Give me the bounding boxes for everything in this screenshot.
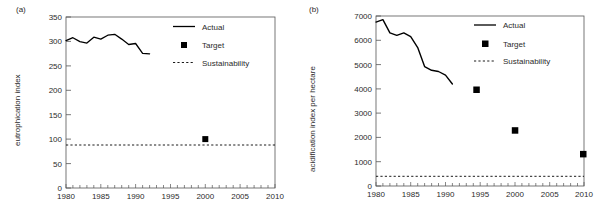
legend-sustainability-label-a: Sustainability — [202, 59, 249, 68]
figure-container: (a) eutrophication index 0 50 100 — [0, 0, 595, 216]
panel-a-xtick-1985: 1985 — [92, 192, 110, 201]
panel-b-target-marker-2010 — [580, 151, 587, 158]
panel-b-target-marker-1994 — [473, 87, 480, 94]
panel-b-svg: (b) acidification index per hectare 0 10… — [297, 0, 595, 216]
panel-a-label: (a) — [16, 5, 26, 14]
legend-target-swatch-a — [181, 42, 187, 48]
panel-a-target-marker — [202, 136, 208, 142]
panel-a-y-ticks — [66, 17, 71, 188]
panel-b-x-tick-labels: 1980 1985 1990 1995 2000 2005 2010 — [367, 190, 593, 199]
legend-sustainability-label-b: Sustainability — [503, 57, 550, 66]
panel-a-y-axis-title: eutrophication index — [13, 74, 22, 146]
panel-b-xtick-2000: 2000 — [506, 190, 524, 199]
panel-a-ytick-100: 100 — [49, 135, 63, 144]
panel-a-x-minor-ticks — [66, 184, 275, 188]
panel-b-ytick-4000: 4000 — [354, 85, 372, 94]
panel-a-ytick-200: 200 — [49, 86, 63, 95]
legend-target-swatch-b — [482, 41, 489, 48]
legend-actual-label-a: Actual — [202, 23, 224, 32]
panel-a-xtick-1980: 1980 — [57, 192, 75, 201]
panel-b-ytick-5000: 5000 — [354, 61, 372, 70]
panel-a-xtick-1995: 1995 — [162, 192, 180, 201]
panel-b-xtick-2010: 2010 — [575, 190, 593, 199]
legend-target-label-a: Target — [202, 41, 225, 50]
panel-b-ytick-1000: 1000 — [354, 158, 372, 167]
panel-a-ytick-350: 350 — [49, 13, 63, 22]
panel-a-actual-line — [66, 34, 150, 54]
panel-b-actual-line — [376, 20, 452, 84]
legend-actual-label-b: Actual — [503, 21, 525, 30]
panel-a-xtick-2005: 2005 — [231, 192, 249, 201]
panel-b-legend: Actual Target Sustainability — [474, 21, 550, 66]
panel-b-xtick-1990: 1990 — [437, 190, 455, 199]
panel-a-ytick-150: 150 — [49, 111, 63, 120]
panel-a-plot-frame — [66, 17, 275, 188]
panel-b-xtick-1980: 1980 — [367, 190, 385, 199]
panel-b-xtick-1985: 1985 — [402, 190, 420, 199]
panel-b-target-marker-2000 — [512, 127, 519, 134]
panel-a-ytick-50: 50 — [53, 160, 62, 169]
panel-b-y-tick-labels: 0 1000 2000 3000 4000 5000 6000 7000 — [354, 12, 372, 191]
panel-b-plot-frame — [376, 16, 584, 186]
panel-a-svg: (a) eutrophication index 0 50 100 — [0, 0, 298, 216]
panel-a-ytick-250: 250 — [49, 62, 63, 71]
panel-b-x-minor-ticks — [376, 182, 584, 186]
legend-target-label-b: Target — [503, 40, 526, 49]
panel-a-y-tick-labels: 0 50 100 150 200 250 300 350 — [49, 13, 63, 193]
panel-b-label: (b) — [309, 5, 319, 14]
panel-b-xtick-2005: 2005 — [541, 190, 559, 199]
chart-panel-a: (a) eutrophication index 0 50 100 — [0, 0, 298, 216]
panel-b-ytick-6000: 6000 — [354, 36, 372, 45]
panel-b-y-ticks — [376, 16, 381, 186]
panel-b-xtick-1995: 1995 — [471, 190, 489, 199]
panel-b-ytick-7000: 7000 — [354, 12, 372, 21]
panel-a-legend: Actual Target Sustainability — [173, 23, 249, 68]
panel-a-xtick-2010: 2010 — [266, 192, 284, 201]
panel-a-x-tick-labels: 1980 1985 1990 1995 2000 2005 2010 — [57, 192, 284, 201]
chart-panel-b: (b) acidification index per hectare 0 10… — [297, 0, 595, 216]
panel-a-ytick-300: 300 — [49, 37, 63, 46]
panel-b-ytick-2000: 2000 — [354, 133, 372, 142]
panel-a-xtick-1990: 1990 — [127, 192, 145, 201]
panel-a-xtick-2000: 2000 — [196, 192, 214, 201]
panel-b-ytick-3000: 3000 — [354, 109, 372, 118]
panel-b-y-axis-title: acidification index per hectare — [308, 66, 317, 172]
